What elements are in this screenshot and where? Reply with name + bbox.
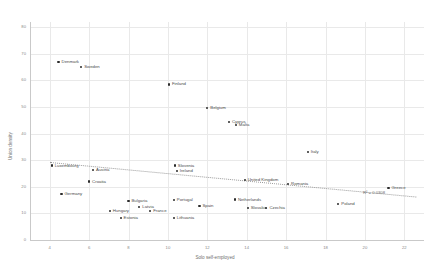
data-point-label: Sweden	[84, 65, 100, 69]
x-axis-tick-label: 16	[276, 246, 296, 250]
data-point[interactable]	[244, 179, 246, 181]
y-axis-title: Union density	[9, 132, 14, 160]
data-point[interactable]	[247, 207, 249, 209]
y-axis-tick-label: 70	[10, 52, 26, 56]
x-axis-tick-label: 22	[394, 246, 414, 250]
data-point[interactable]	[109, 210, 111, 212]
data-point[interactable]	[173, 217, 175, 219]
gridline-horizontal	[30, 134, 424, 135]
data-point[interactable]	[80, 66, 82, 68]
gridline-horizontal	[30, 213, 424, 214]
data-point[interactable]	[337, 203, 339, 205]
x-axis-tick-label: 12	[197, 246, 217, 250]
data-point-label: France	[153, 209, 166, 213]
x-axis-tick-label: 4	[40, 246, 60, 250]
y-axis-tick-label: 80	[10, 25, 26, 29]
y-axis-tick-label: 0	[10, 238, 26, 242]
data-point-label: Hungary	[113, 209, 129, 213]
data-point-label: Austria	[96, 168, 109, 172]
y-axis-tick-label: 50	[10, 105, 26, 109]
x-axis-line	[30, 240, 424, 241]
data-point[interactable]	[174, 164, 176, 166]
data-point-label: Lithuania	[177, 216, 194, 220]
data-point[interactable]	[149, 210, 151, 212]
data-point[interactable]	[51, 164, 53, 166]
x-axis-title: Solo self-employed	[0, 256, 430, 261]
gridline-horizontal	[30, 187, 424, 188]
data-point-label: Ireland	[180, 169, 193, 173]
data-point[interactable]	[265, 207, 267, 209]
data-point-label: Portugal	[177, 198, 193, 202]
data-point[interactable]	[228, 121, 230, 123]
data-point[interactable]	[127, 200, 129, 202]
x-axis-tick-label: 14	[237, 246, 257, 250]
gridline-horizontal	[30, 160, 424, 161]
scatter-chart: 0102030405060708046810121416182022Solo s…	[0, 0, 430, 267]
data-point[interactable]	[176, 170, 178, 172]
x-axis-tick-label: 10	[158, 246, 178, 250]
gridline-horizontal	[30, 80, 424, 81]
gridline-horizontal	[30, 27, 424, 28]
data-point[interactable]	[57, 61, 59, 63]
x-axis-tick-label: 20	[355, 246, 375, 250]
x-axis-tick-label: 18	[316, 246, 336, 250]
data-point-label: Estonia	[124, 216, 138, 220]
data-point-label: Latvia	[142, 205, 153, 209]
data-point[interactable]	[92, 169, 94, 171]
y-axis-tick-label: 10	[10, 211, 26, 215]
data-point[interactable]	[307, 151, 309, 153]
data-point[interactable]	[387, 187, 389, 189]
y-axis-line	[30, 22, 31, 240]
data-point-label: Denmark	[62, 60, 79, 64]
data-point-label: Netherlands	[238, 198, 261, 202]
data-point[interactable]	[168, 83, 170, 85]
gridline-horizontal	[30, 54, 424, 55]
data-point-label: Italy	[311, 150, 319, 154]
data-point[interactable]	[235, 124, 237, 126]
annotation-r-squared: R² = 0.0308	[363, 190, 385, 195]
y-axis-tick-label: 20	[10, 185, 26, 189]
data-point-label: Malta	[239, 123, 250, 127]
data-point[interactable]	[88, 180, 90, 182]
data-point-label: Romania	[291, 182, 308, 186]
data-point-label: Poland	[341, 202, 354, 206]
data-point-label: United Kingdom	[248, 178, 279, 182]
gridline-horizontal	[30, 107, 424, 108]
data-point-label: Spain	[202, 204, 213, 208]
data-point-label: Croatia	[92, 180, 106, 184]
data-point-label: Czechia	[269, 206, 285, 210]
data-point[interactable]	[120, 217, 122, 219]
x-axis-tick-label: 8	[119, 246, 139, 250]
data-point-label: Belgium	[210, 106, 226, 110]
data-point[interactable]	[234, 198, 236, 200]
data-point-label: Greece	[392, 186, 406, 190]
x-axis-tick-label: 6	[79, 246, 99, 250]
data-point[interactable]	[60, 193, 62, 195]
data-point-label: Germany	[65, 192, 83, 196]
data-point[interactable]	[138, 206, 140, 208]
data-point-label: Luxembourg	[55, 164, 79, 168]
data-point-label: Bulgaria	[132, 199, 148, 203]
data-point-label: Finland	[172, 82, 186, 86]
data-point[interactable]	[198, 205, 200, 207]
y-axis-tick-label: 60	[10, 78, 26, 82]
data-point[interactable]	[173, 199, 175, 201]
